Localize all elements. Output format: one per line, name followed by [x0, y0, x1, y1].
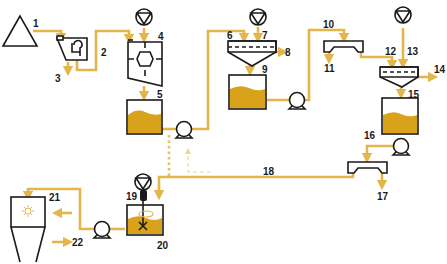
tank-5 [127, 100, 162, 134]
label-6: 6 [227, 30, 233, 41]
label-16: 16 [364, 130, 376, 141]
tank-9 [229, 75, 266, 109]
dosing-pump-icon [136, 9, 152, 25]
label-14: 14 [434, 64, 446, 75]
settler-6 [228, 41, 276, 66]
label-12: 12 [385, 46, 397, 57]
tank-15 [382, 98, 418, 134]
label-10: 10 [323, 19, 335, 30]
label-19: 19 [126, 191, 138, 202]
process-flow-diagram: 1 2 3 4 5 6 7 8 9 10 11 12 13 14 15 16 1… [0, 0, 447, 264]
motor-icon [140, 190, 147, 201]
dosing-pump-icon [250, 9, 266, 25]
settler-12 [380, 67, 418, 87]
filter-trough-10 [324, 41, 363, 52]
label-11: 11 [324, 63, 335, 74]
dosing-pump-icon [135, 174, 151, 190]
return-line-dashed [188, 151, 211, 172]
label-21: 21 [49, 192, 61, 203]
pipe-16 [367, 146, 394, 158]
pump-icon [289, 93, 305, 110]
pump-icon [94, 222, 110, 239]
feed-hopper-icon [3, 16, 37, 46]
label-9: 9 [262, 64, 268, 75]
label-22: 22 [72, 237, 84, 248]
screen-separator [57, 36, 87, 60]
dosing-pump-icon [395, 7, 411, 23]
filter-trough-17 [348, 162, 387, 173]
reactor-4 [128, 40, 162, 86]
label-2: 2 [101, 47, 107, 58]
label-13: 13 [407, 46, 419, 57]
label-1: 1 [33, 18, 39, 29]
pump-icon [393, 139, 409, 156]
label-7: 7 [262, 30, 268, 41]
label-3: 3 [55, 73, 61, 84]
label-4: 4 [158, 31, 164, 42]
pump-icon [176, 122, 192, 139]
label-15: 15 [408, 89, 420, 100]
label-18: 18 [263, 166, 275, 177]
spray-dryer-21 [11, 197, 45, 262]
label-5: 5 [157, 89, 163, 100]
label-20: 20 [157, 240, 169, 251]
pipe-18 [159, 170, 353, 195]
label-17: 17 [377, 191, 389, 202]
label-8: 8 [285, 47, 291, 58]
